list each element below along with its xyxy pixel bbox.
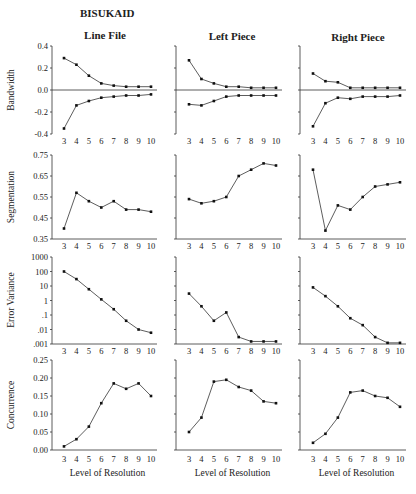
x-tick-label: 4 [323,241,328,251]
data-point [324,102,327,105]
data-point [100,206,103,209]
x-tick-label: 7 [237,136,241,146]
x-tick-label: 9 [261,346,265,356]
data-point [337,305,340,308]
data-point [275,94,278,97]
x-tick-label: 3 [187,241,191,251]
x-tick-label: 8 [373,346,377,356]
x-tick-label: 10 [147,136,156,146]
data-point [250,94,253,97]
data-point [275,87,278,90]
series-line [189,96,276,106]
data-point [137,208,140,211]
data-point [312,442,315,445]
x-tick-label: 10 [272,136,281,146]
x-tick-label: 3 [311,241,315,251]
x-tick-label: 5 [212,136,216,146]
x-tick-label: 8 [124,136,128,146]
data-point [250,168,253,171]
y-tick-label: 1000 [31,252,48,262]
data-point [250,87,253,90]
y-tick-label: .01 [37,325,48,335]
x-tick-label: 10 [396,454,405,464]
x-tick-label: 5 [87,241,91,251]
figure-title: BISUKAID [80,7,134,19]
x-tick-label: 5 [336,241,340,251]
x-tick-label: 8 [124,454,128,464]
data-point [361,196,364,199]
y-tick-label: 100 [35,267,48,277]
panel-error-variance-1: 345678910 [174,257,282,356]
x-tick-label: 6 [348,346,352,356]
x-tick-label: 5 [212,241,216,251]
series-line [64,94,151,128]
data-point [361,324,364,327]
x-tick-label: 9 [385,241,389,251]
data-point [312,72,315,75]
panel-bandwidth-0: 0.40.20.0-0.2-0.4345678910Bandwidth [6,41,157,146]
data-point [150,93,153,96]
column-title-line-file: Line File [84,29,126,41]
data-point [361,95,364,98]
x-tick-label: 7 [112,136,116,146]
data-point [225,196,228,199]
data-point [75,63,78,66]
x-axis-label: Level of Resolution [195,468,271,478]
x-tick-label: 9 [136,136,140,146]
data-point [188,431,191,434]
series-line [189,294,276,342]
data-point [200,202,203,205]
data-point [100,298,103,301]
x-tick-label: 6 [348,136,352,146]
data-point [337,204,340,207]
series-line [64,58,151,87]
x-tick-label: 9 [136,241,140,251]
data-point [237,386,240,389]
x-tick-label: 4 [323,346,328,356]
data-point [112,84,115,87]
data-point [262,340,265,343]
y-tick-label: 0.4 [37,41,48,51]
y-tick-label: 0.25 [33,355,48,365]
data-point [200,416,203,419]
data-point [137,328,140,331]
x-tick-label: 9 [385,346,389,356]
y-tick-label: 0.55 [33,192,48,202]
x-tick-label: 5 [87,454,91,464]
data-point [250,389,253,392]
data-point [75,278,78,281]
x-tick-label: 4 [74,136,79,146]
x-tick-label: 6 [224,241,228,251]
x-tick-label: 7 [361,454,365,464]
x-tick-label: 6 [224,454,228,464]
data-point [213,380,216,383]
data-point [262,162,265,165]
data-point [88,288,91,291]
x-tick-label: 9 [136,346,140,356]
data-point [200,305,203,308]
x-tick-label: 7 [361,346,365,356]
data-point [374,87,377,90]
data-point [337,416,340,419]
panel-concurrence-1: 345678910Level of Resolution [174,360,282,478]
data-point [374,95,377,98]
data-point [213,82,216,85]
data-point [213,200,216,203]
data-point [386,95,389,98]
data-point [386,342,389,345]
data-point [374,336,377,339]
data-point [312,168,315,171]
x-tick-label: 5 [212,454,216,464]
x-tick-label: 6 [99,454,103,464]
x-tick-label: 6 [99,346,103,356]
data-point [361,87,364,90]
y-axis-label: Segmentation [6,171,16,223]
y-axis-label: Concurrence [6,381,16,430]
x-tick-label: 7 [237,241,241,251]
x-tick-label: 7 [237,346,241,356]
x-tick-label: 8 [249,454,253,464]
data-point [399,87,402,90]
data-point [100,96,103,99]
x-axis-label: Level of Resolution [70,468,146,478]
panel-error-variance-2: 345678910 [298,257,406,356]
